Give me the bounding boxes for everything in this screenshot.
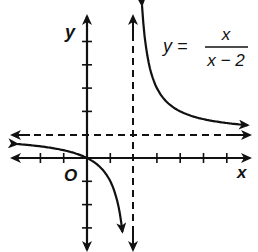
origin-label: O <box>64 166 77 185</box>
equation-numerator: x <box>221 25 231 44</box>
equation-lhs: y = <box>161 36 188 56</box>
y-axis-label: y <box>64 22 76 42</box>
equation-label: y = x x − 2 <box>161 25 248 70</box>
x-axis-label: x <box>236 163 248 182</box>
graph: y x O y = x x − 2 <box>0 0 258 252</box>
equation-denominator: x − 2 <box>206 51 245 70</box>
